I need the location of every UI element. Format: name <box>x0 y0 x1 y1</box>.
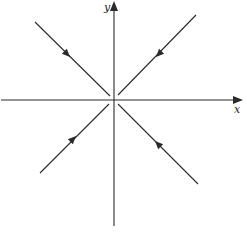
y-axis-arrow-icon <box>110 1 118 11</box>
phase-portrait-diagram <box>0 0 247 234</box>
x-axis-label: x <box>234 104 240 115</box>
trajectory-upper-left <box>35 22 110 96</box>
y-axis-label: y <box>104 2 110 13</box>
arrow-upper-right-icon <box>153 49 164 60</box>
arrow-lower-left-icon <box>68 134 79 145</box>
